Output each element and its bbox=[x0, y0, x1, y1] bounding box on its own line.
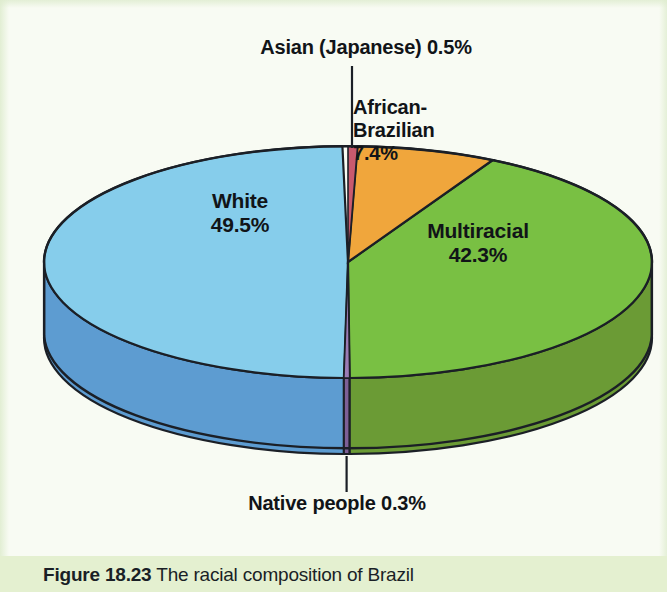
slice-label-white: White 49.5% bbox=[150, 189, 330, 236]
slice-label-native-people: Native people 0.3% bbox=[203, 492, 471, 514]
figure-container: Asian (Japanese) 0.5% African- Brazilian… bbox=[0, 0, 667, 592]
figure-caption-number: Figure 18.23 bbox=[43, 564, 151, 585]
slice-label-asian-japanese: Asian (Japanese) 0.5% bbox=[232, 36, 500, 58]
figure-caption: Figure 18.23 The racial composition of B… bbox=[43, 564, 643, 586]
slice-label-multiracial: Multiracial 42.3% bbox=[385, 219, 571, 266]
pie-chart-graphic bbox=[0, 0, 667, 548]
pie-chart-area: Asian (Japanese) 0.5% African- Brazilian… bbox=[0, 0, 667, 548]
figure-caption-title: The racial composition of Brazil bbox=[151, 564, 413, 585]
slice-label-african-brazilian: African- Brazilian 7.4% bbox=[353, 96, 471, 166]
figure-caption-band: Figure 18.23 The racial composition of B… bbox=[0, 556, 667, 592]
